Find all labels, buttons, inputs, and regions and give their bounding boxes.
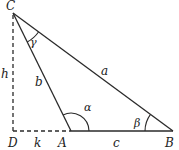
angle-label-beta: β bbox=[133, 117, 140, 130]
side-label-k: k bbox=[34, 136, 41, 150]
vertex-label-b: B bbox=[164, 136, 174, 150]
vertex-label-d: D bbox=[7, 136, 18, 150]
triangle-diagram: C D A B a b c h k γ α β bbox=[0, 0, 179, 150]
side-label-c: c bbox=[113, 136, 120, 150]
side-label-h: h bbox=[1, 67, 9, 81]
side-a-line bbox=[13, 13, 173, 131]
angle-beta-arc bbox=[145, 114, 151, 131]
angle-label-alpha: α bbox=[84, 101, 92, 114]
angle-label-gamma: γ bbox=[30, 36, 37, 49]
side-label-b: b bbox=[35, 75, 43, 89]
side-b-line bbox=[13, 13, 71, 131]
vertex-label-a: A bbox=[57, 136, 67, 150]
side-label-a: a bbox=[101, 64, 108, 78]
vertex-label-c: C bbox=[6, 0, 15, 13]
